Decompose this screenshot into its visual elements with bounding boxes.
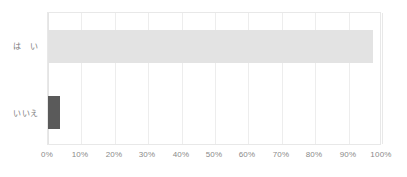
x-tick-label: 80%	[306, 150, 323, 159]
x-tick-label: 90%	[340, 150, 357, 159]
bar-chart: は いいいえ 0%10%20%30%40%50%60%70%80%90%100%	[0, 0, 407, 177]
x-tick-label: 50%	[206, 150, 223, 159]
x-tick-label: 0%	[41, 150, 53, 159]
x-tick-label: 40%	[173, 150, 190, 159]
x-axis-tick-labels: 0%10%20%30%40%50%60%70%80%90%100%	[0, 150, 407, 170]
x-tick-label: 30%	[139, 150, 156, 159]
bar-row	[48, 30, 380, 63]
bar-row	[48, 96, 380, 129]
bar-1[interactable]	[48, 30, 373, 63]
plot-area	[47, 12, 381, 145]
x-tick-label: 10%	[72, 150, 89, 159]
gridline	[382, 13, 383, 144]
x-tick-label: 100%	[370, 150, 391, 159]
x-tick-label: 60%	[239, 150, 256, 159]
x-tick-label: 70%	[273, 150, 290, 159]
category-label-1: は い	[13, 40, 55, 51]
category-label-2: いいえ	[13, 107, 55, 118]
x-tick-label: 20%	[106, 150, 123, 159]
